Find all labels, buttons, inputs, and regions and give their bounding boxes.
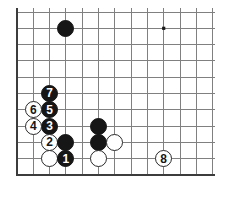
stone-black [90, 134, 107, 151]
stone-white-2: 2 [41, 134, 58, 151]
go-diagram: 75634218 [0, 0, 235, 201]
stone-black [90, 118, 107, 135]
stone-move-number: 5 [46, 103, 53, 115]
stone-black-3: 3 [41, 118, 58, 135]
stone-move-number: 6 [30, 103, 37, 115]
stone-move-number: 4 [30, 120, 37, 132]
stone-move-number: 2 [46, 136, 53, 148]
stone-move-number: 8 [160, 152, 167, 164]
star-point-marker [162, 27, 165, 30]
stone-white-4: 4 [25, 118, 42, 135]
stone-move-number: 3 [46, 120, 53, 132]
stone-move-number: 1 [63, 152, 70, 164]
stone-move-number: 7 [46, 87, 53, 99]
